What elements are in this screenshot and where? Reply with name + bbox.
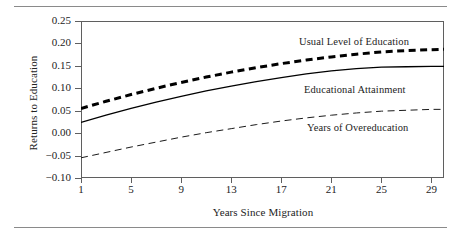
y-tick-label-wrap: 0.25: [33, 15, 71, 26]
y-tick-label: 0.05: [33, 105, 71, 116]
y-tick-label-wrap: 0.15: [33, 60, 71, 71]
series-label-years-of-overeducation: Years of Overeducation: [307, 122, 408, 133]
x-tick-label: 9: [166, 184, 196, 195]
x-tick-label: 29: [416, 184, 446, 195]
x-axis-title: Years Since Migration: [81, 206, 445, 218]
y-tick-label: −0.05: [33, 150, 71, 161]
y-tick-label-wrap: 0.10: [33, 82, 71, 93]
y-tick-label: −0.10: [33, 172, 71, 183]
x-tick-label: 13: [216, 184, 246, 195]
x-tick-label: 5: [116, 184, 146, 195]
series-line-years-of-overeducation: [81, 109, 444, 157]
y-tick-label-wrap: −0.05: [33, 150, 71, 161]
y-tick-label-wrap: 0.00: [33, 127, 71, 138]
figure-container: Returns to Education Years Since Migrati…: [0, 0, 461, 238]
x-tick-label: 17: [266, 184, 296, 195]
series-label-usual-level-of-education: Usual Level of Education: [299, 36, 409, 47]
series-label-educational-attainment: Educational Attainment: [304, 84, 406, 95]
x-tick-label: 1: [66, 184, 96, 195]
y-axis-ticks: 0.250.200.150.100.050.00−0.05−0.10: [0, 0, 81, 238]
y-tick-label-wrap: −0.10: [33, 172, 71, 183]
y-tick-label: 0.10: [33, 82, 71, 93]
y-tick-label: 0.25: [33, 15, 71, 26]
series-group: [81, 49, 444, 158]
y-tick-label: 0.00: [33, 127, 71, 138]
y-tick-label-wrap: 0.20: [33, 37, 71, 48]
y-tick-label: 0.15: [33, 60, 71, 71]
y-tick-label: 0.20: [33, 37, 71, 48]
y-tick-label-wrap: 0.05: [33, 105, 71, 116]
x-tick-label: 25: [366, 184, 396, 195]
x-tick-label: 21: [316, 184, 346, 195]
series-line-usual-level-of-education: [81, 49, 444, 108]
